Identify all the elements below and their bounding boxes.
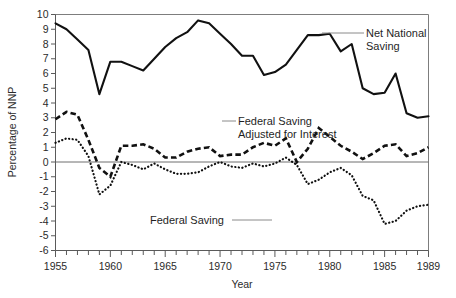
y-tick-label: 6 [43,67,49,79]
saving-chart: -6-5-4-3-2-1012345678910 195519601965197… [0,0,456,298]
y-tick-label: 7 [43,52,49,64]
label-net-national-saving-line1: Net National [366,27,427,39]
y-tick-label: 10 [37,8,49,20]
y-tick-label: 0 [43,156,49,168]
label-federal-saving-adjusted-line2: Adjusted for Interest [238,128,336,140]
chart-canvas: -6-5-4-3-2-1012345678910 195519601965197… [0,0,456,298]
y-axis-title: Percentage of NNP [6,87,18,177]
y-tick-label: -4 [39,215,48,227]
x-tick-label: 1965 [154,260,178,272]
label-federal-saving: Federal Saving [150,214,224,226]
y-tick-label: 1 [43,141,49,153]
x-tick-label: 1985 [373,260,397,272]
y-tick-label: 9 [43,23,49,35]
y-tick-label: 4 [43,97,49,109]
y-tick-label: 2 [43,126,49,138]
y-tick-label: -1 [39,170,48,182]
x-tick-label: 1970 [208,260,232,272]
x-tick-label: 1989 [417,260,441,272]
x-axis-title: Year [231,278,253,290]
y-tick-label: -5 [39,229,48,241]
y-tick-label: 5 [43,82,49,94]
x-axis-title-text: Year [231,278,253,290]
annotation-federal-saving: Federal Saving [150,214,272,226]
label-net-national-saving-line2: Saving [366,40,400,52]
y-tick-label: 8 [43,38,49,50]
x-tick-group: 19551960196519701975198019851989 [44,251,441,272]
label-federal-saving-adjusted-line1: Federal Saving [238,115,312,127]
y-tick-group: -6-5-4-3-2-1012345678910 [37,8,56,256]
x-tick-label: 1975 [263,260,287,272]
x-tick-label: 1955 [44,260,68,272]
y-tick-label: 3 [43,111,49,123]
x-tick-label: 1960 [99,260,123,272]
y-axis-title-text: Percentage of NNP [6,87,18,177]
series-line-federal-saving [56,138,429,224]
annotation-federal-saving-adjusted: Federal Saving Adjusted for Interest [222,115,336,140]
y-tick-label: -3 [39,200,48,212]
y-tick-label: -2 [39,185,48,197]
y-tick-label: -6 [39,244,48,256]
x-tick-label: 1980 [318,260,342,272]
